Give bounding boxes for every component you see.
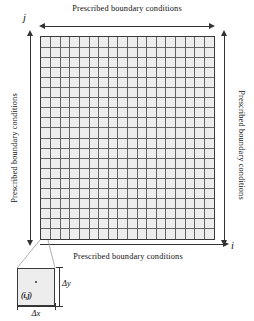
delta-x-dimension-line bbox=[17, 306, 55, 307]
grid-diagram-figure: Prescribed boundary conditions j Prescri… bbox=[0, 0, 254, 321]
inset-magnified-cell bbox=[17, 268, 55, 306]
cell-index-label: (i,j) bbox=[21, 291, 32, 300]
delta-x-tick-left bbox=[17, 303, 18, 310]
delta-x-label: Δx bbox=[32, 308, 41, 318]
delta-x-tick-right bbox=[55, 303, 56, 310]
delta-y-label: Δy bbox=[62, 278, 71, 288]
cell-center-node-dot bbox=[35, 281, 37, 283]
delta-y-tick-top bbox=[56, 267, 63, 268]
delta-y-tick-bottom bbox=[56, 306, 63, 307]
delta-y-dimension-line bbox=[59, 268, 60, 306]
